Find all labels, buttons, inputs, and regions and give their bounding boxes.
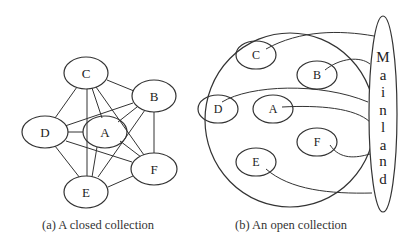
figure-b-open-collection: C B D A F E M a i n l a: [198, 16, 397, 212]
svg-text:D: D: [214, 102, 223, 116]
node-d: D: [22, 116, 68, 148]
node-b-b: B: [297, 61, 337, 89]
node-b-d: D: [198, 95, 238, 123]
edge-c-d: [55, 87, 77, 118]
edge-c-b: [107, 80, 134, 91]
edge-a-e: [92, 147, 97, 177]
node-e: E: [64, 176, 108, 208]
svg-text:n: n: [379, 153, 387, 169]
svg-text:F: F: [314, 135, 321, 149]
mainland: M a i n l a n d: [369, 16, 397, 212]
svg-text:a: a: [380, 67, 387, 83]
svg-text:n: n: [379, 102, 387, 118]
svg-text:B: B: [313, 68, 321, 82]
svg-text:A: A: [100, 125, 110, 140]
svg-text:E: E: [82, 185, 90, 200]
svg-text:C: C: [82, 66, 91, 81]
caption-a: (a) A closed collection: [42, 218, 154, 233]
svg-text:B: B: [150, 89, 159, 104]
caption-b: (b) An open collection: [235, 218, 347, 233]
edge-d-f: [66, 141, 132, 162]
node-a: A: [83, 116, 127, 148]
figure-a-closed-collection: C B D A F E: [22, 57, 177, 208]
node-b-a: A: [253, 95, 293, 123]
edge-d-e: [55, 146, 80, 178]
svg-text:M: M: [376, 49, 389, 65]
node-b-e: E: [236, 148, 276, 176]
svg-text:a: a: [380, 137, 387, 153]
svg-text:C: C: [252, 48, 260, 62]
edge-e-f: [108, 176, 133, 187]
edge-e-mainland: [266, 169, 372, 193]
node-b: B: [132, 80, 176, 112]
svg-text:A: A: [269, 102, 278, 116]
node-c: C: [64, 57, 108, 89]
edge-a-f: [120, 141, 141, 157]
svg-text:d: d: [379, 171, 387, 187]
svg-text:l: l: [381, 119, 385, 135]
svg-text:E: E: [252, 155, 259, 169]
edge-a-mainland: [282, 106, 370, 122]
edge-d-mainland: [222, 88, 368, 102]
svg-text:F: F: [150, 162, 157, 177]
node-b-f: F: [297, 128, 337, 156]
svg-text:D: D: [40, 125, 49, 140]
edge-c-mainland: [266, 32, 374, 49]
edge-b-a: [118, 107, 137, 122]
node-b-c: C: [236, 41, 276, 69]
figure-b-mainland-edges: [222, 32, 374, 193]
svg-text:i: i: [381, 84, 385, 100]
node-f: F: [131, 153, 177, 185]
edge-b-mainland: [325, 59, 370, 70]
figure-canvas: C B D A F E: [0, 0, 414, 241]
